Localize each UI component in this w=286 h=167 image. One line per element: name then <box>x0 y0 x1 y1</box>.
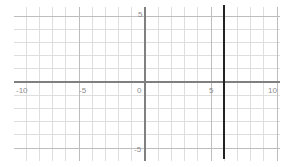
chart-plot-area <box>0 0 286 167</box>
x-tick-label-neg10: -10 <box>16 86 28 95</box>
x-tick-label-origin: 0 <box>137 86 141 95</box>
y-tick-label-neg5: -5 <box>134 145 141 154</box>
x-tick-label-neg5: -5 <box>79 86 86 95</box>
y-tick-label-pos5: 5 <box>138 10 142 19</box>
grid-major-lines <box>14 7 280 161</box>
coordinate-plane-chart: -10 -5 0 5 10 5 -5 <box>0 0 286 167</box>
grid-minor-lines <box>14 7 280 161</box>
axis-lines <box>14 7 280 161</box>
x-tick-label-pos5: 5 <box>209 86 213 95</box>
x-tick-label-pos10: 10 <box>268 86 277 95</box>
